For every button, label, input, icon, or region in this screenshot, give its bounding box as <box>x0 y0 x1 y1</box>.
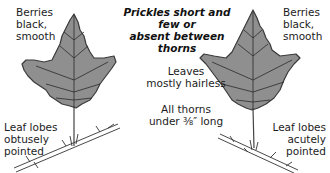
title: Prickles short and few or absent between… <box>112 6 242 54</box>
text-line: pointed <box>4 145 58 157</box>
text-line: obtusely <box>4 133 58 145</box>
text-line: Leaf lobes <box>4 121 58 133</box>
title-line-2: absent between thorns <box>112 30 242 54</box>
text-line: Berries <box>16 6 55 18</box>
left-berries-label: Berries black, smooth <box>16 6 55 42</box>
text-line: smooth <box>16 30 55 42</box>
right-berries-label: Berries black, smooth <box>283 6 322 42</box>
text-line: Leaf lobes <box>262 121 326 133</box>
text-line: acutely <box>262 133 326 145</box>
left-lobes-label: Leaf lobes obtusely pointed <box>4 121 58 157</box>
thorns-label: All thorns under ⅜″ long <box>138 103 234 127</box>
text-line: All thorns <box>138 103 234 115</box>
text-line: black, <box>16 18 55 30</box>
text-line: under ⅜″ long <box>138 115 234 127</box>
text-line: mostly hairless <box>138 77 234 89</box>
leaves-label: Leaves mostly hairless <box>138 65 234 89</box>
text-line: Berries <box>283 6 322 18</box>
text-line: smooth <box>283 30 322 42</box>
title-line-1: Prickles short and few or <box>112 6 242 30</box>
illustration: Prickles short and few or absent between… <box>0 0 330 173</box>
text-line: black, <box>283 18 322 30</box>
text-line: Leaves <box>138 65 234 77</box>
right-lobes-label: Leaf lobes acutely pointed <box>262 121 326 157</box>
text-line: pointed <box>262 145 326 157</box>
